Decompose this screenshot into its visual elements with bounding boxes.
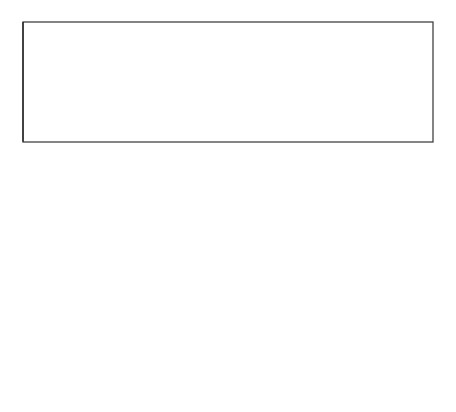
outer-frame: [23, 22, 433, 141]
humus-diagram: [0, 0, 456, 412]
diagram-border: [23, 22, 433, 141]
frame-border: [23, 22, 433, 142]
